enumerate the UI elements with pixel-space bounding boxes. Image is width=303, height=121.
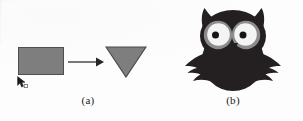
owl-left-pupil: [212, 32, 219, 39]
rectangle-shape: [18, 47, 64, 75]
owl-body-group: [185, 8, 281, 91]
down-triangle-shape: [105, 46, 147, 78]
right-arrow-icon: [68, 55, 104, 69]
panel-b-label: (b): [211, 94, 255, 106]
mouse-pointer-icon: [17, 76, 28, 89]
owl-right-pupil: [240, 32, 247, 39]
panel-a-label: (a): [66, 94, 110, 106]
owl-illustration: [181, 6, 285, 94]
figure-container: (a): [0, 0, 303, 121]
